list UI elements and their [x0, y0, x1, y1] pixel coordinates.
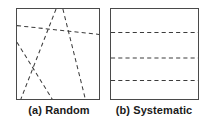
random-transect-line-4 [17, 42, 52, 99]
random-transect-line-2 [21, 9, 56, 99]
sampling-comparison-figure: (a) Random (b) Systematic [0, 0, 208, 127]
systematic-sampling-panel [110, 8, 199, 100]
panel-a-caption: (a) Random [14, 104, 104, 116]
random-transect-line-1 [17, 26, 99, 35]
panel-a-container: (a) Random [14, 0, 104, 127]
random-transect-diagram [17, 9, 99, 99]
systematic-transect-diagram [111, 9, 198, 99]
panel-b-caption: (b) Systematic [106, 104, 202, 116]
panel-b-container: (b) Systematic [106, 0, 202, 127]
random-transect-line-3 [63, 9, 85, 99]
random-sampling-panel [16, 8, 100, 100]
